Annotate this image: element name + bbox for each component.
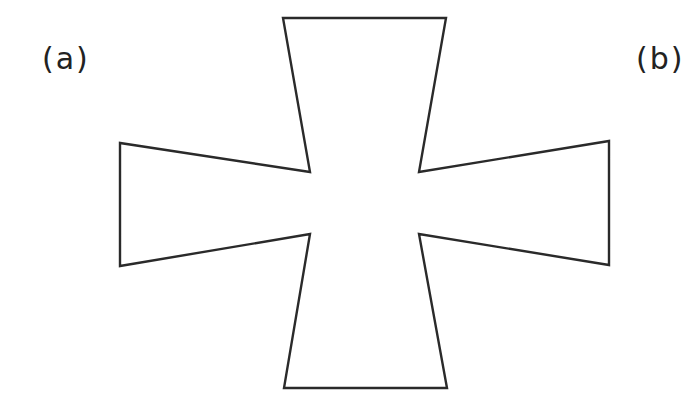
- cross-shape: [120, 18, 609, 388]
- cross-shape-svg: [0, 0, 690, 412]
- figure-canvas: (a) (b): [0, 0, 690, 412]
